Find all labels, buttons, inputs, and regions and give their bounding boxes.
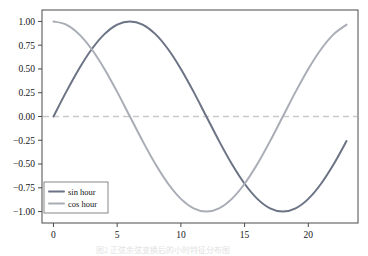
x-axis-tick-label: 20 [304,230,314,240]
y-axis-tick-label: −1.00 [13,207,35,217]
x-axis-tick-label: 15 [240,230,250,240]
y-axis-tick-label: 0.75 [18,41,35,51]
x-axis-tick-label: 5 [115,230,120,240]
y-axis-tick-label: 0.00 [18,112,35,122]
legend-label: cos hour [68,199,97,209]
figure-caption: 图2 正弦余弦变换后的小时特征分布图 [96,246,311,256]
y-axis-tick-label: 0.25 [18,88,35,98]
legend-label: sin hour [68,187,96,197]
y-axis-tick-label: −0.50 [13,159,35,169]
y-axis-tick-label: 1.00 [18,17,35,27]
chart-legend[interactable]: sin hourcos hour [44,182,108,213]
figure-canvas: 1.000.750.500.250.00−0.25−0.50−0.75−1.00… [0,0,368,256]
y-axis-tick-label: 0.50 [18,64,35,74]
y-axis-tick-group: 1.000.750.500.250.00−0.25−0.50−0.75−1.00 [13,17,42,217]
x-axis-tick-label: 0 [51,230,56,240]
chart-plot: 1.000.750.500.250.00−0.25−0.50−0.75−1.00… [0,0,368,256]
x-axis-tick-label: 10 [176,230,186,240]
x-axis-tick-group: 05101520 [51,223,313,240]
y-axis-tick-label: −0.75 [13,183,35,193]
y-axis-tick-label: −0.25 [13,136,35,146]
